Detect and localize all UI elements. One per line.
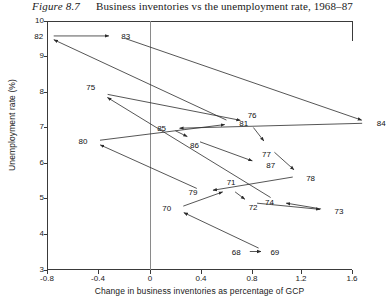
x-tick-label-08: 0.8 bbox=[232, 274, 272, 284]
x-tick-label-04: 0.4 bbox=[181, 274, 221, 284]
y-tick-mark-10 bbox=[44, 21, 48, 22]
y-tick-label-10: 10 bbox=[0, 16, 44, 26]
data-point-label-77: 77 bbox=[262, 149, 271, 158]
data-point-label-82: 82 bbox=[34, 31, 43, 40]
data-point-label-70: 70 bbox=[162, 203, 171, 212]
x-tick-label-neg08: -0.8 bbox=[27, 274, 67, 284]
data-point-label-76: 76 bbox=[248, 111, 257, 120]
plot-area bbox=[47, 21, 352, 270]
x-tick-mark-12 bbox=[301, 270, 302, 274]
y-tick-mark-5 bbox=[44, 198, 48, 199]
y-tick-label-5: 5 bbox=[0, 193, 44, 203]
data-point-label-79: 79 bbox=[189, 187, 198, 196]
x-tick-mark-zero bbox=[150, 270, 151, 274]
y-tick-mark-9 bbox=[44, 56, 48, 57]
data-point-label-87: 87 bbox=[266, 160, 275, 169]
x-axis-title: Change in business inventories as percen… bbox=[47, 286, 352, 296]
data-point-label-72: 72 bbox=[249, 203, 258, 212]
data-point-label-80: 80 bbox=[79, 137, 88, 146]
y-tick-mark-4 bbox=[44, 234, 48, 235]
x-tick-label-neg04: -0.4 bbox=[78, 274, 118, 284]
x-tick-mark-04 bbox=[201, 270, 202, 274]
x-tick-mark-16 bbox=[352, 270, 353, 274]
data-point-label-74: 74 bbox=[265, 197, 274, 206]
x-tick-mark-neg04 bbox=[98, 270, 99, 274]
x-tick-label-12: 1.2 bbox=[281, 274, 321, 284]
data-point-label-78: 78 bbox=[306, 173, 315, 182]
zero-reference-line bbox=[150, 21, 151, 270]
data-point-label-75: 75 bbox=[86, 82, 95, 91]
data-point-label-73: 73 bbox=[335, 207, 344, 216]
data-point-label-83: 83 bbox=[121, 31, 130, 40]
x-tick-mark-08 bbox=[252, 270, 253, 274]
data-point-label-84: 84 bbox=[377, 119, 386, 128]
y-axis-title: Unemployment rate (%) bbox=[7, 60, 17, 190]
plot-right-edge bbox=[352, 21, 353, 41]
y-tick-mark-7 bbox=[44, 127, 48, 128]
x-tick-label-zero: 0 bbox=[130, 274, 170, 284]
y-tick-mark-8 bbox=[44, 92, 48, 93]
data-point-label-69: 69 bbox=[270, 247, 279, 256]
figure-number: Figure 8.7 bbox=[32, 0, 80, 12]
x-tick-mark-neg08 bbox=[47, 270, 48, 274]
data-point-label-86: 86 bbox=[190, 141, 199, 150]
data-point-label-71: 71 bbox=[227, 177, 236, 186]
data-point-label-81: 81 bbox=[239, 119, 248, 128]
y-tick-mark-6 bbox=[44, 163, 48, 164]
x-tick-label-16: 1.6 bbox=[332, 274, 372, 284]
data-point-label-68: 68 bbox=[232, 247, 241, 256]
page-title: Business inventories vs the unemployment… bbox=[96, 0, 353, 12]
y-tick-label-4: 4 bbox=[0, 229, 44, 239]
data-point-label-85: 85 bbox=[157, 124, 166, 133]
figure-title-bar: Figure 8.7 Business inventories vs the u… bbox=[0, 0, 384, 14]
